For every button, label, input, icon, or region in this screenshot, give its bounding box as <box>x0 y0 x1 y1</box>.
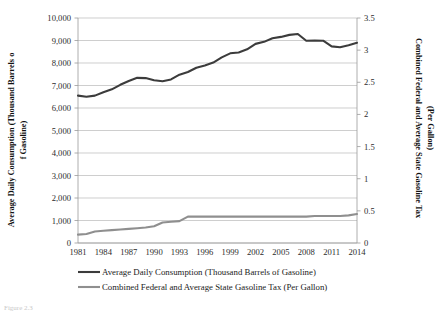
right-axis-ticks <box>357 18 361 243</box>
series-line <box>78 34 357 97</box>
plot-gridlines <box>78 18 357 243</box>
figure-caption: Figure 2.3 <box>4 304 33 312</box>
left-tick-label: 6,000 <box>52 103 71 113</box>
left-tick-label: 7,000 <box>52 81 71 91</box>
left-tick-label: 2,000 <box>52 193 71 203</box>
figure-container: 01,0002,0003,0004,0005,0006,0007,0008,00… <box>0 0 441 314</box>
left-tick-label: 4,000 <box>52 148 71 158</box>
x-tick-label: 2014 <box>348 247 366 257</box>
right-axis-title: Combined Federal and Average State Gasol… <box>414 38 423 219</box>
x-axis-tick-labels: 1981198419871990199319961999200220052008… <box>69 247 366 257</box>
x-tick-label: 1999 <box>222 247 239 257</box>
left-tick-label: 10,000 <box>47 13 71 23</box>
legend-label: Average Daily Consumption (Thousand Barr… <box>102 267 316 277</box>
x-tick-label: 2002 <box>247 247 264 257</box>
right-axis-tick-labels: 00.511.522.533.5 <box>364 13 375 248</box>
legend-label: Combined Federal and Average State Gasol… <box>102 282 327 292</box>
gasoline-consumption-tax-chart: 01,0002,0003,0004,0005,0006,0007,0008,00… <box>0 0 441 314</box>
x-tick-label: 1990 <box>145 247 162 257</box>
right-tick-label: 2.5 <box>364 77 375 87</box>
x-tick-label: 1987 <box>120 247 138 257</box>
x-tick-label: 2005 <box>272 247 289 257</box>
x-tick-label: 1984 <box>95 247 113 257</box>
x-tick-label: 2011 <box>323 247 340 257</box>
series-line <box>78 214 357 235</box>
x-tick-label: 2008 <box>298 247 315 257</box>
x-tick-label: 1981 <box>69 247 86 257</box>
left-tick-label: 3,000 <box>52 171 71 181</box>
right-tick-label: 3 <box>364 45 368 55</box>
left-axis-title: Average Daily Consumption (Thousand Barr… <box>7 53 16 228</box>
left-tick-label: 8,000 <box>52 58 71 68</box>
right-tick-label: 1 <box>364 174 368 184</box>
data-series-lines <box>78 34 357 235</box>
left-tick-label: 9,000 <box>52 36 71 46</box>
right-tick-label: 1.5 <box>364 142 375 152</box>
left-axis-title-line2: f Gasoline) <box>19 121 28 160</box>
left-axis-tick-labels: 01,0002,0003,0004,0005,0006,0007,0008,00… <box>47 13 71 248</box>
x-tick-label: 1996 <box>196 247 214 257</box>
chart-legend: Average Daily Consumption (Thousand Barr… <box>78 267 327 292</box>
left-tick-label: 5,000 <box>52 126 71 136</box>
right-tick-label: 0.5 <box>364 206 375 216</box>
left-axis-ticks <box>75 18 79 243</box>
right-tick-label: 3.5 <box>364 13 375 23</box>
right-axis-title-line2: (Per Gallon) <box>426 106 435 150</box>
left-tick-label: 1,000 <box>52 216 71 226</box>
x-tick-label: 1993 <box>171 247 188 257</box>
right-tick-label: 2 <box>364 109 368 119</box>
